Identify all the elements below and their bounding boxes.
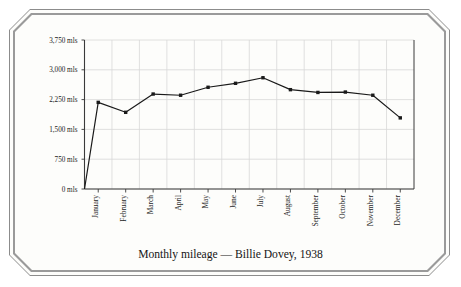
data-point-marker <box>206 86 209 89</box>
data-series-line <box>85 78 401 189</box>
y-axis-tick-label: 750 mls <box>55 156 78 164</box>
y-axis-tick-label: 3,000 mls <box>49 66 78 74</box>
data-point-marker <box>179 94 182 97</box>
x-axis-tick-label: May <box>201 195 210 209</box>
series-line-monthly-mileage <box>85 78 401 189</box>
data-point-marker <box>316 91 319 94</box>
data-point-marker <box>371 94 374 97</box>
y-axis-tick-label: 1,500 mls <box>49 126 78 134</box>
data-point-marker <box>97 101 100 104</box>
x-axis-tick-label: October <box>338 194 347 218</box>
data-point-marker <box>399 116 402 119</box>
chart-title: Monthly mileage — Billie Dovey, 1938 <box>0 248 461 261</box>
x-axis-tick-label: November <box>366 194 375 226</box>
x-axis-tick-labels: JanuaryFebruaryMarchAprilMayJuneJulyAugu… <box>91 189 402 227</box>
data-point-marker <box>261 76 264 79</box>
x-axis-tick-label: September <box>311 194 320 226</box>
x-axis-tick-label: June <box>229 194 238 208</box>
x-axis-tick-label: February <box>119 195 128 222</box>
x-axis-tick-label: July <box>256 195 265 208</box>
data-point-marker <box>344 90 347 93</box>
y-axis-tick-label: 3,750 mls <box>49 37 78 45</box>
x-axis-tick-label: March <box>146 195 155 215</box>
data-point-marker <box>151 92 154 95</box>
x-axis-tick-label: December <box>393 194 402 225</box>
data-point-marker <box>289 88 292 91</box>
grid-lines <box>85 40 415 189</box>
x-axis-tick-label: April <box>174 195 183 211</box>
data-point-marker <box>124 111 127 114</box>
y-axis-tick-labels: 0 mls750 mls1,500 mls2,250 mls3,000 mls3… <box>49 37 84 194</box>
line-chart: 0 mls750 mls1,500 mls2,250 mls3,000 mls3… <box>0 0 461 287</box>
x-axis-tick-label: January <box>91 195 100 218</box>
data-point-marker <box>234 82 237 85</box>
y-axis-tick-label: 2,250 mls <box>49 96 78 104</box>
x-axis-tick-label: August <box>283 194 292 216</box>
y-axis-tick-label: 0 mls <box>62 186 78 194</box>
